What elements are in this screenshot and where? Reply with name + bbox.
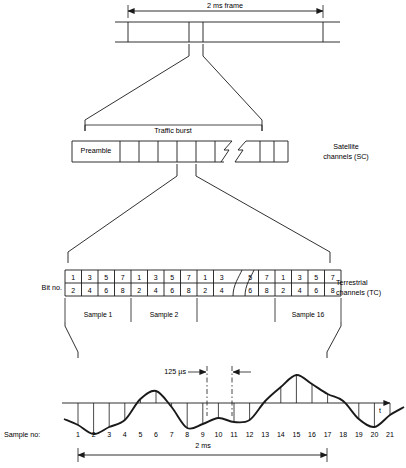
sample-number: 12 [243, 430, 257, 439]
bit-cell-bottom: 4 [293, 286, 307, 295]
bit-cell-top: 3 [215, 273, 229, 282]
terrestrial-channels-label: Terrestrial channels (TC) [336, 278, 406, 297]
bit-cell-top: 1 [198, 273, 212, 282]
bit-cell-bottom: 8 [182, 286, 196, 295]
bit-cell-top: 7 [260, 273, 274, 282]
expansion-lines-2 [68, 164, 330, 263]
satellite-channels-line2: channels (SC) [323, 152, 369, 161]
sample-number: 6 [149, 430, 163, 439]
sample-number: 14 [274, 430, 288, 439]
bit-cell-bottom: 4 [149, 286, 163, 295]
satellite-channels-line1: Satellite [333, 142, 359, 151]
sample-number: 9 [196, 430, 210, 439]
sample-number: 18 [336, 430, 350, 439]
bit-cell-top: 1 [276, 273, 290, 282]
sample-number: 20 [367, 430, 381, 439]
bit-cell-bottom: 2 [132, 286, 146, 295]
sample-number: 19 [352, 430, 366, 439]
terrestrial-channels-line1: Terrestrial [336, 278, 368, 287]
time-axis-label: t [379, 406, 381, 415]
sample-number: 16 [305, 430, 319, 439]
bit-cell-top: 3 [83, 273, 97, 282]
bit-cell-bottom: 8 [116, 286, 130, 295]
sample-group-label: Sample 1 [68, 311, 128, 319]
bit-cell-bottom: 4 [215, 286, 229, 295]
sample-number: 3 [102, 430, 116, 439]
sample-number: 13 [258, 430, 272, 439]
bit-cell-top: 1 [66, 273, 80, 282]
sample-number: 5 [133, 430, 147, 439]
sample-number: 2 [87, 430, 101, 439]
bit-cell-bottom: 8 [326, 286, 340, 295]
sample-number: 10 [211, 430, 225, 439]
interval-markers [207, 366, 232, 416]
bit-cell-bottom: 2 [198, 286, 212, 295]
sample-number: 8 [180, 430, 194, 439]
sample-number: 15 [289, 430, 303, 439]
expansion-lines-3 [65, 322, 341, 358]
bit-cell-bottom: 6 [165, 286, 179, 295]
sample-number: 11 [227, 430, 241, 439]
sample-number: 4 [118, 430, 132, 439]
bit-cell-top: 1 [132, 273, 146, 282]
satellite-channels-label: Satellite channels (SC) [296, 142, 396, 161]
frame-bar-group [115, 22, 340, 42]
bit-cell-top: 7 [116, 273, 130, 282]
bit-cell-bottom: 2 [66, 286, 80, 295]
bit-cell-top: 3 [293, 273, 307, 282]
diagram-artwork [0, 0, 406, 468]
sample-stems [78, 375, 390, 434]
sample-group-label: Sample 2 [134, 311, 194, 319]
bit-cell-bottom: 6 [243, 286, 257, 295]
preamble-cell-label: Preamble [73, 146, 119, 155]
bit-no-row-label: Bit no. [18, 283, 62, 292]
sample-number: 21 [383, 430, 397, 439]
bit-cell-top: 7 [182, 273, 196, 282]
bit-cell-bottom: 8 [260, 286, 274, 295]
duration-dimension-arrow [78, 448, 327, 462]
bit-cell-bottom: 2 [276, 286, 290, 295]
bit-cell-top: 5 [165, 273, 179, 282]
bit-cell-top: 3 [149, 273, 163, 282]
bit-cell-bottom: 6 [99, 286, 113, 295]
sample-no-row-label: Sample no: [4, 430, 40, 439]
bit-cell-top: 7 [326, 273, 340, 282]
sample-number: 17 [321, 430, 335, 439]
bit-cell-top: 5 [243, 273, 257, 282]
diagram-canvas: 2 ms frame Traffic burst Preamble Satell… [0, 0, 406, 468]
sample-number: 7 [165, 430, 179, 439]
frame-dimension-label: 2 ms frame [170, 1, 280, 10]
bit-cell-top: 5 [99, 273, 113, 282]
interval-label: 125 µs [130, 367, 186, 376]
bit-cell-bottom: 4 [83, 286, 97, 295]
traffic-burst-title: Traffic burst [128, 126, 218, 135]
bit-cell-bottom: 6 [309, 286, 323, 295]
sample-number: 1 [71, 430, 85, 439]
bit-cell-top: 5 [309, 273, 323, 282]
sample-group-label: Sample 16 [278, 311, 338, 319]
expansion-lines-1 [85, 44, 262, 131]
terrestrial-channels-line2: channels (TC) [336, 288, 381, 297]
duration-label: 2 ms [178, 441, 228, 450]
